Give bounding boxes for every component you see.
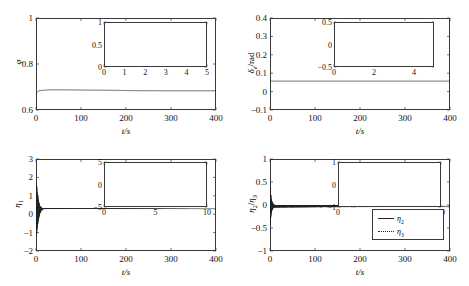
inset-x-tick-label: 0: [336, 208, 340, 217]
axis-label-phi-x: t/s: [122, 126, 131, 136]
x-tick-label: 200: [119, 254, 133, 264]
x-tick-label: 100: [74, 254, 88, 264]
legend-entry-eta3: η3: [378, 227, 404, 238]
y-tick-label: 0: [240, 87, 267, 97]
inset-x-tick-label: 0: [102, 208, 106, 217]
inset-y-tick-label: −5: [82, 203, 102, 212]
axis-label-eta1-x: t/s: [122, 267, 131, 277]
legend-swatch-solid-icon: [378, 218, 394, 220]
x-tick-label: 0: [268, 254, 273, 264]
y-tick-label: −1: [6, 228, 33, 238]
x-tick-label: 100: [308, 113, 322, 123]
inset-y-tick-label: 0: [82, 180, 102, 189]
inset-y-tick-label: 0: [316, 180, 336, 189]
inset-y-tick-label: 5: [82, 158, 102, 167]
y-tick-label: 0: [240, 200, 267, 210]
axis-label-eta2-eta3-x: t/s: [356, 267, 365, 277]
inset-x-tick-label: 1: [123, 68, 127, 77]
inset-x-tick-label: 4: [412, 68, 416, 77]
inset-axes-delta-e: [334, 22, 434, 67]
y-tick-label: 1: [6, 13, 33, 23]
y-tick-label: −0.1: [240, 105, 267, 115]
inset-x-tick-label: 5: [205, 68, 209, 77]
x-tick-label: 200: [119, 113, 133, 123]
inset-x-tick-label: 5: [154, 208, 158, 217]
inset-x-tick-label: 0: [102, 68, 106, 77]
y-tick-label: 0.8: [6, 59, 33, 69]
x-tick-label: 200: [353, 254, 367, 264]
inset-y-tick-label: 1: [316, 158, 336, 167]
inset-axes-phi: [104, 22, 207, 67]
inset-y-tick-label: 0.5: [312, 18, 332, 27]
y-tick-label: −1: [240, 246, 267, 256]
inset-y-tick-label: 0: [312, 40, 332, 49]
legend-label-eta2: η2: [397, 214, 404, 225]
y-tick-label: 1: [6, 191, 33, 201]
x-tick-label: 400: [443, 254, 457, 264]
axis-label-delta-e-x: t/s: [356, 126, 365, 136]
subplot-eta2-eta3: η2/η3 t/s 0100200300400−1−0.500.51 0510−…: [234, 143, 469, 286]
legend-entry-eta2: η2: [378, 214, 404, 225]
x-tick-label: 400: [209, 254, 223, 264]
x-tick-label: 200: [353, 113, 367, 123]
y-tick-label: 0.4: [240, 13, 267, 23]
x-tick-label: 100: [308, 254, 322, 264]
x-tick-label: 400: [209, 113, 223, 123]
y-tick-label: 0.6: [6, 105, 33, 115]
x-tick-label: 400: [443, 113, 457, 123]
inset-axes-eta2-eta3: [338, 162, 441, 207]
y-tick-label: 3: [6, 154, 33, 164]
x-tick-label: 300: [164, 254, 178, 264]
inset-y-tick-label: 0: [82, 63, 102, 72]
subplot-eta1: η1 t/s 0100200300400−2−10123 0510−505: [0, 143, 235, 286]
axis-label-eta1-y: η1: [12, 182, 24, 226]
y-tick-label: 0: [6, 209, 33, 219]
y-tick-label: 0.3: [240, 31, 267, 41]
subplot-delta-e: δe/rad t/s 0100200300400−0.100.10.20.30.…: [234, 0, 469, 143]
legend-swatch-dotted-icon: [378, 231, 394, 233]
inset-x-tick-label: 0: [332, 68, 336, 77]
legend-eta2-eta3: η2 η3: [372, 209, 444, 240]
y-tick-label: −2: [6, 246, 33, 256]
figure-panel: φ t/s 01002003004000.60.81 01234500.51 δ…: [0, 0, 469, 286]
legend-label-eta3: η3: [397, 227, 404, 238]
x-tick-label: 300: [164, 113, 178, 123]
inset-y-tick-label: −0.5: [312, 63, 332, 72]
inset-axes-eta1: [104, 162, 207, 207]
x-tick-label: 0: [34, 113, 39, 123]
x-tick-label: 0: [34, 254, 39, 264]
inset-x-tick-label: 2: [143, 68, 147, 77]
x-tick-label: 100: [74, 113, 88, 123]
y-tick-label: 0.5: [240, 177, 267, 187]
subplot-phi: φ t/s 01002003004000.60.81 01234500.51: [0, 0, 235, 143]
y-tick-label: 1: [240, 154, 267, 164]
inset-y-tick-label: 1: [82, 18, 102, 27]
inset-y-tick-label: −1: [316, 203, 336, 212]
x-tick-label: 0: [268, 113, 273, 123]
inset-x-tick-label: 2: [372, 68, 376, 77]
x-tick-label: 300: [398, 254, 412, 264]
inset-x-tick-label: 4: [184, 68, 188, 77]
y-tick-label: 0.2: [240, 50, 267, 60]
inset-y-tick-label: 0.5: [82, 40, 102, 49]
y-tick-label: 2: [6, 172, 33, 182]
y-tick-label: −0.5: [240, 223, 267, 233]
inset-x-tick-label: 3: [164, 68, 168, 77]
inset-x-tick-label: 10: [203, 208, 211, 217]
x-tick-label: 300: [398, 113, 412, 123]
axis-label-delta-e-y: δe/rad: [246, 33, 258, 93]
y-tick-label: 0.1: [240, 68, 267, 78]
